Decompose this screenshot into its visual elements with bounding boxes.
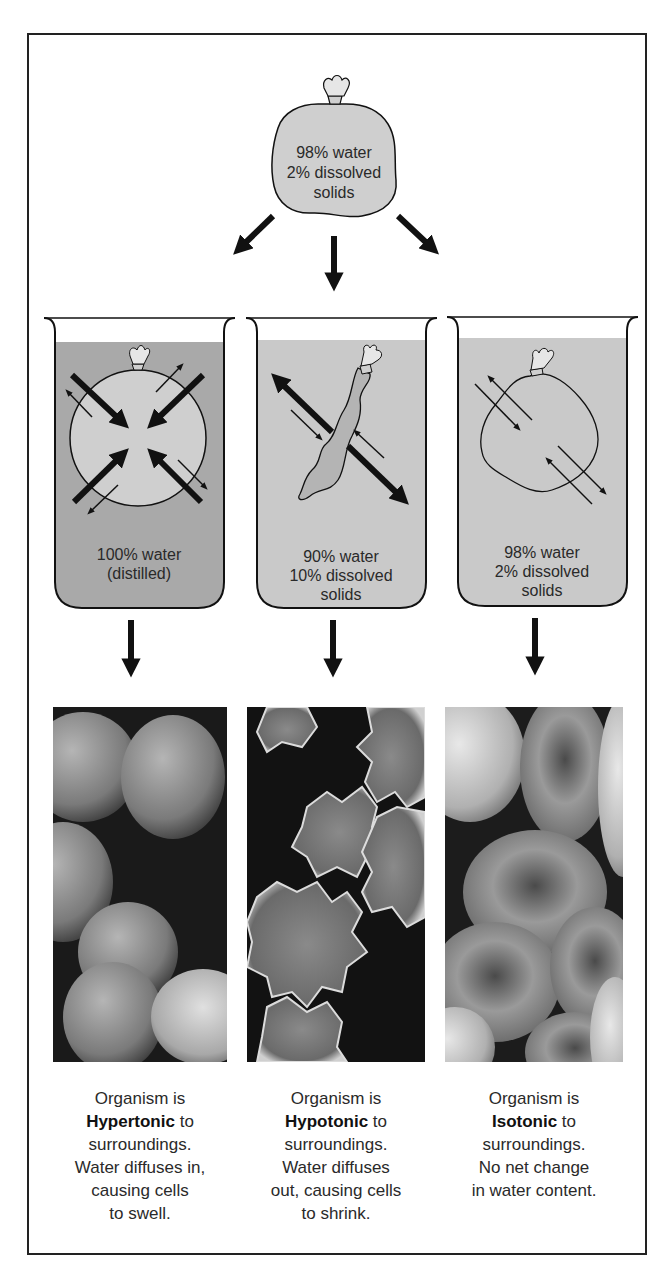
source-bag-label: 98% water 2% dissolved solids xyxy=(269,143,399,203)
caption-term-line: Hypotonic to xyxy=(236,1110,436,1133)
caption-line: surroundings. xyxy=(236,1133,436,1156)
caption-line: out, causing cells xyxy=(236,1179,436,1202)
caption-isotonic: Organism is Isotonic to surroundings. No… xyxy=(434,1087,634,1202)
caption-line: to swell. xyxy=(40,1202,240,1225)
caption-line: Organism is xyxy=(434,1087,634,1110)
caption-line: Organism is xyxy=(236,1087,436,1110)
beaker-label-line: (distilled) xyxy=(54,564,224,583)
beaker-label-line: 90% water xyxy=(256,547,426,566)
caption-line: surroundings. xyxy=(40,1133,240,1156)
beaker-label-line: 2% dissolved xyxy=(457,562,627,581)
caption-line: Water diffuses xyxy=(236,1156,436,1179)
caption-line: Organism is xyxy=(40,1087,240,1110)
photo-shrunken-cells xyxy=(247,707,425,1062)
caption-hypertonic: Organism is Hypertonic to surroundings. … xyxy=(40,1087,240,1225)
caption-term: Hypotonic xyxy=(285,1112,368,1131)
caption-hypotonic: Organism is Hypotonic to surroundings. W… xyxy=(236,1087,436,1225)
beaker-label-line: solids xyxy=(256,585,426,604)
photo-normal-cells xyxy=(445,707,623,1062)
beaker-hypotonic-label: 90% water 10% dissolved solids xyxy=(256,547,426,604)
caption-line: to shrink. xyxy=(236,1202,436,1225)
beaker-label-line: 100% water xyxy=(54,545,224,564)
bag-label-line: 2% dissolved xyxy=(269,163,399,183)
photo-swollen-cells xyxy=(53,707,227,1062)
beaker-label-line: solids xyxy=(457,581,627,600)
caption-line: to xyxy=(557,1112,576,1131)
caption-term-line: Hypertonic to xyxy=(40,1110,240,1133)
result-arrows xyxy=(131,618,535,668)
caption-term: Isotonic xyxy=(492,1112,557,1131)
beaker-isotonic-label: 98% water 2% dissolved solids xyxy=(457,543,627,600)
caption-line: to xyxy=(175,1112,194,1131)
bag-label-line: solids xyxy=(269,183,399,203)
beaker-hypertonic-label: 100% water (distilled) xyxy=(54,545,224,583)
bag-label-line: 98% water xyxy=(269,143,399,163)
caption-line: causing cells xyxy=(40,1179,240,1202)
caption-line: No net change xyxy=(434,1156,634,1179)
beaker-label-line: 10% dissolved xyxy=(256,566,426,585)
caption-line: Water diffuses in, xyxy=(40,1156,240,1179)
caption-term-line: Isotonic to xyxy=(434,1110,634,1133)
caption-line: surroundings. xyxy=(434,1133,634,1156)
caption-line: in water content. xyxy=(434,1179,634,1202)
beaker-label-line: 98% water xyxy=(457,543,627,562)
caption-line: to xyxy=(368,1112,387,1131)
caption-term: Hypertonic xyxy=(86,1112,175,1131)
branch-arrows xyxy=(240,216,432,282)
